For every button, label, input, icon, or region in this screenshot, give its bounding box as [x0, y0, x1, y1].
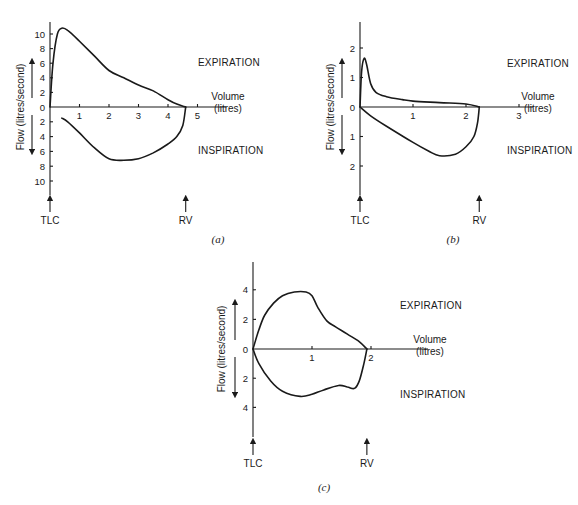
x-tick-label: 3 — [136, 110, 141, 121]
x-tick-label: 1 — [77, 110, 82, 121]
x-axis-label: Volume — [413, 334, 447, 345]
x-tick-label: 4 — [165, 110, 170, 121]
y-tick-label: 8 — [40, 43, 45, 54]
x-tick-label: 1 — [309, 352, 314, 363]
rv-label: RV — [179, 215, 193, 226]
y-tick-label: 2 — [40, 116, 45, 127]
inspiration-label: INSPIRATION — [198, 145, 263, 156]
inspiration-label: INSPIRATION — [400, 389, 465, 400]
inspiration-curve — [360, 107, 479, 156]
y-tick-label: 10 — [34, 29, 45, 40]
x-tick-label: 1 — [410, 110, 415, 121]
y-tick-label: 10 — [34, 176, 45, 187]
flow-volume-figure: 123450246810246810Flow (litres/second)Vo… — [0, 0, 578, 505]
y-tick-label: 4 — [243, 284, 248, 295]
x-axis-label: Volume — [521, 91, 555, 102]
x-tick-label: 5 — [195, 110, 200, 121]
chart-panel-c: 1202424Flow (litres/second)Volume(litres… — [216, 262, 466, 494]
y-tick-label: 6 — [40, 146, 45, 157]
y-tick-label: 2 — [243, 314, 248, 325]
x-axis-unit: (litres) — [416, 346, 444, 357]
x-axis-unit: (litres) — [524, 103, 552, 114]
y-tick-label: 0 — [243, 344, 248, 355]
y-tick-label: 1 — [350, 131, 355, 142]
y-tick-label: 0 — [350, 102, 355, 113]
x-axis-unit: (litres) — [214, 103, 242, 114]
y-axis-label: Flow (litres/second) — [15, 64, 26, 151]
y-tick-label: 2 — [350, 161, 355, 172]
tlc-label: TLC — [351, 215, 370, 226]
y-tick-label: 2 — [40, 87, 45, 98]
expiration-label: EXPIRATION — [198, 57, 260, 68]
y-tick-label: 0 — [40, 102, 45, 113]
chart-panel-b: 12301212Flow (litres/second)Volume(litre… — [325, 22, 573, 246]
chart-panel-a: 123450246810246810Flow (litres/second)Vo… — [15, 22, 264, 246]
y-axis-label: Flow (litres/second) — [216, 306, 227, 393]
panel-caption: (c) — [318, 481, 331, 494]
y-tick-label: 2 — [350, 43, 355, 54]
x-tick-label: 3 — [516, 110, 521, 121]
x-axis-label: Volume — [211, 91, 245, 102]
panel-caption: (b) — [447, 233, 460, 246]
x-tick-label: 2 — [368, 352, 373, 363]
expiration-label: EXPIRATION — [400, 300, 462, 311]
y-tick-label: 4 — [40, 72, 45, 83]
y-tick-label: 4 — [40, 131, 45, 142]
expiration-curve — [360, 58, 479, 107]
tlc-label: TLC — [244, 458, 263, 469]
expiration-curve — [253, 292, 367, 349]
tlc-label: TLC — [41, 215, 60, 226]
x-tick-label: 2 — [463, 110, 468, 121]
y-tick-label: 6 — [40, 58, 45, 69]
y-tick-label: 8 — [40, 161, 45, 172]
y-tick-label: 1 — [350, 72, 355, 83]
rv-label: RV — [472, 215, 486, 226]
x-tick-label: 2 — [106, 110, 111, 121]
inspiration-label: INSPIRATION — [507, 145, 572, 156]
expiration-label: EXPIRATION — [507, 58, 569, 69]
y-axis-label: Flow (litres/second) — [325, 64, 336, 151]
rv-label: RV — [360, 458, 374, 469]
panel-caption: (a) — [212, 233, 225, 246]
y-tick-label: 2 — [243, 373, 248, 384]
y-tick-label: 4 — [243, 402, 248, 413]
expiration-curve — [50, 28, 186, 107]
